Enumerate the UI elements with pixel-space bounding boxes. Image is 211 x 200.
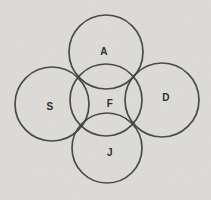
circle-label-S: S [46, 101, 53, 112]
circle-label-J: J [107, 147, 113, 158]
circle-label-A: A [100, 46, 108, 57]
circle-label-F: F [107, 98, 114, 109]
paper-texture [0, 0, 211, 200]
circle-label-D: D [162, 92, 170, 103]
five-circle-diagram: ASFDJ [0, 0, 211, 200]
scanned-figure: ASFDJ [0, 0, 211, 200]
